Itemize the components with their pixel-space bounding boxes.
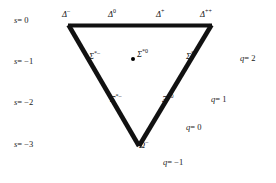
particle-sigma-star-minus: Σ*– bbox=[89, 52, 100, 61]
particle-delta-zero-charge: 0 bbox=[113, 8, 116, 14]
particle-xi-star-zero: Ξ*0 bbox=[162, 95, 173, 104]
strangeness-label-3: s= −3 bbox=[14, 140, 33, 149]
charge-value-1: = 1 bbox=[215, 94, 226, 104]
particle-delta-zero: Δ0 bbox=[108, 10, 116, 19]
weight-diagram-figure: s= 0 s= −1 s= −2 s= −3 q= 2 q= 1 q= 0 q=… bbox=[0, 0, 276, 183]
charge-label-0: q= 0 bbox=[186, 123, 201, 132]
particle-xi-star-zero-charge: *0 bbox=[167, 93, 173, 99]
particle-delta-plus-plus-charge: ++ bbox=[205, 8, 212, 14]
charge-value-0: = 0 bbox=[190, 122, 201, 132]
charge-label-minus-1: q= −1 bbox=[163, 158, 183, 167]
charge-value-2: = 2 bbox=[244, 53, 255, 63]
particle-xi-star-minus: Ξ*– bbox=[110, 95, 121, 104]
strangeness-value-3: = −3 bbox=[17, 139, 33, 149]
strangeness-value-0: = 0 bbox=[17, 15, 28, 25]
particle-sigma-star-plus-charge: *+ bbox=[191, 50, 197, 56]
particle-delta-plus-charge: + bbox=[161, 8, 164, 14]
particle-sigma-star-zero-charge: *0 bbox=[142, 48, 148, 54]
strangeness-label-0: s= 0 bbox=[14, 16, 28, 25]
particle-omega-minus: Ω– bbox=[139, 141, 148, 150]
particle-sigma-star-plus: Σ*+ bbox=[186, 52, 197, 61]
strangeness-label-2: s= −2 bbox=[14, 98, 33, 107]
particle-omega-minus-charge: – bbox=[145, 139, 148, 145]
triangle-left-edge bbox=[69, 25, 140, 146]
strangeness-value-1: = −1 bbox=[17, 56, 33, 66]
triangle-graphic bbox=[0, 0, 276, 183]
particle-xi-star-minus-charge: *– bbox=[115, 93, 121, 99]
charge-value-minus-1: = −1 bbox=[167, 157, 183, 167]
particle-sigma-star-minus-charge: *– bbox=[94, 50, 100, 56]
strangeness-label-1: s= −1 bbox=[14, 57, 33, 66]
particle-sigma-star-zero: Σ*0 bbox=[137, 50, 148, 59]
charge-label-2: q= 2 bbox=[240, 54, 255, 63]
particle-delta-plus-plus: Δ++ bbox=[200, 10, 212, 19]
charge-label-1: q= 1 bbox=[211, 95, 226, 104]
particle-delta-plus: Δ+ bbox=[156, 10, 164, 19]
particle-delta-minus: Δ– bbox=[62, 10, 70, 19]
particle-delta-minus-charge: – bbox=[67, 8, 70, 14]
strangeness-value-2: = −2 bbox=[17, 97, 33, 107]
sigma-star-zero-marker bbox=[131, 57, 135, 61]
